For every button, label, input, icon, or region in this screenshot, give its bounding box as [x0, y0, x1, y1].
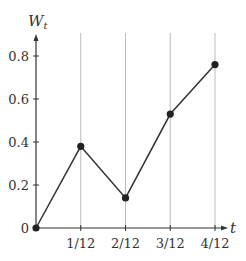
data-point	[211, 61, 218, 68]
y-axis-arrow-icon	[34, 34, 39, 41]
x-tick-label: 1/12	[66, 236, 95, 251]
axes	[34, 34, 229, 231]
data-point	[122, 194, 129, 201]
y-axis-label-subscript: t	[43, 20, 48, 31]
x-tick-label: 3/12	[156, 236, 185, 251]
y-tick-label: 0.6	[8, 92, 29, 107]
x-axis-arrow-icon	[221, 226, 228, 231]
y-tick-label: 0	[21, 221, 29, 236]
y-axis-label: Wt	[28, 12, 48, 31]
grid-lines	[81, 33, 215, 228]
data-point	[32, 224, 39, 231]
x-tick-label: 2/12	[111, 236, 140, 251]
x-tick-label: 4/12	[200, 236, 229, 251]
line-chart: 1/122/123/124/1200.20.40.60.8 Wtt	[0, 0, 246, 261]
y-tick-label: 0.4	[8, 135, 29, 150]
x-axis-label: t	[230, 219, 237, 237]
data-point	[77, 143, 84, 150]
y-tick-label: 0.2	[8, 178, 29, 193]
ticks: 1/122/123/124/1200.20.40.60.8	[8, 49, 229, 252]
data-point	[167, 110, 174, 117]
y-tick-label: 0.8	[8, 49, 29, 64]
axis-labels: Wtt	[28, 12, 237, 237]
